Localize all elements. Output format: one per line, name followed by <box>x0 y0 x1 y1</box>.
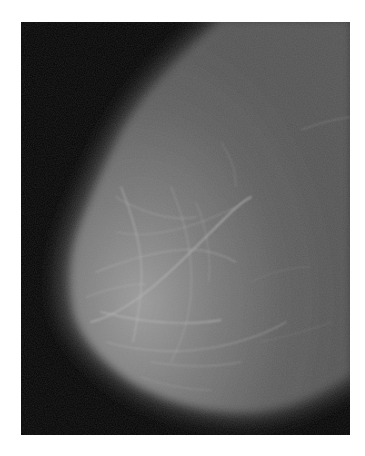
breast-tissue-graphic <box>21 22 350 435</box>
mammogram-image <box>21 22 350 435</box>
film-grain <box>21 22 350 435</box>
